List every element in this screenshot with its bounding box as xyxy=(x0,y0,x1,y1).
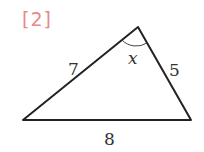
side-right-label: 5 xyxy=(169,60,180,80)
side-left-label: 7 xyxy=(68,59,79,79)
angle-label: x xyxy=(128,48,138,68)
side-bottom-label: 8 xyxy=(104,129,115,149)
triangle xyxy=(23,27,191,120)
figure: [2] x 7 5 8 xyxy=(0,0,204,152)
triangle-diagram: x 7 5 8 xyxy=(0,0,204,152)
angle-arc xyxy=(122,40,147,46)
